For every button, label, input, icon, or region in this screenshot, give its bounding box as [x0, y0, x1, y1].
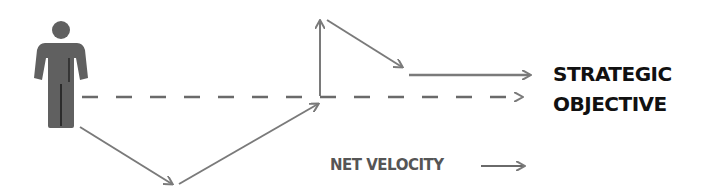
strategic-label: STRATEGIC	[553, 64, 672, 84]
path-arrow-1	[80, 127, 172, 184]
person-icon	[34, 21, 88, 128]
path-arrow-4	[327, 20, 402, 67]
path-arrow-2	[179, 104, 318, 184]
net-velocity-label: NET VELOCITY	[330, 158, 444, 173]
objective-label: OBJECTIVE	[553, 94, 667, 114]
